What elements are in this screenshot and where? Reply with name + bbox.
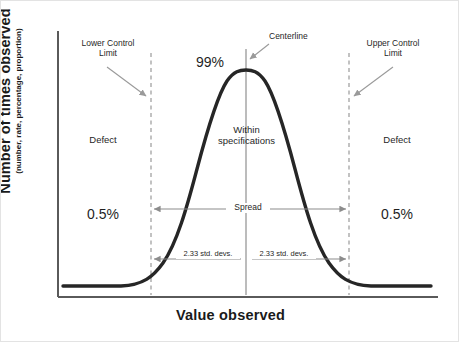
y-axis-title: Number of times observed — [0, 0, 13, 221]
lower-control-limit-label: Lower Control Limit — [73, 39, 143, 59]
centerline-label: Centerline — [269, 32, 308, 42]
x-axis-title: Value observed — [1, 307, 459, 323]
std-devs-right-label: 2.33 std. devs. — [252, 250, 316, 259]
y-axis-subtitle: (number, rate, percentage, proportion) — [14, 0, 23, 221]
centerline-callout-arrow — [250, 44, 269, 59]
defect-left-label: Defect — [73, 135, 133, 146]
normal-distribution-curve — [63, 70, 431, 286]
tail-right-percent-label: 0.5% — [367, 206, 427, 222]
upper-control-limit-label: Upper Control Limit — [357, 39, 429, 59]
defect-right-label: Defect — [367, 135, 427, 146]
tail-left-percent-label: 0.5% — [73, 206, 133, 222]
chart-figure: Lower Control Limit Upper Control Limit … — [0, 0, 459, 342]
spread-label: Spread — [226, 203, 270, 213]
within-percent-label: 99% — [196, 54, 224, 70]
y-axis-title-group: Number of times observed (number, rate, … — [0, 0, 37, 221]
lower-control-limit-callout-arrow — [107, 67, 146, 96]
std-devs-left-label: 2.33 std. devs. — [176, 250, 240, 259]
upper-control-limit-callout-arrow — [354, 67, 393, 96]
within-specifications-label: Within specifications — [204, 125, 289, 147]
